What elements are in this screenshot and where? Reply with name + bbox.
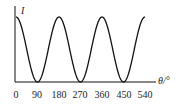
x-tick-label: 270: [73, 89, 88, 100]
x-tick-label: 0: [14, 89, 19, 100]
y-axis-label: I: [20, 5, 25, 16]
x-tick-label: 540: [138, 89, 153, 100]
x-tick-label: 450: [117, 89, 132, 100]
chart: I θ/° 0 90 180 270 360 450 540: [0, 0, 179, 107]
x-tick-label: 180: [52, 89, 67, 100]
intensity-curve: [16, 17, 145, 82]
x-tick-label: 360: [95, 89, 110, 100]
x-tick-label: 90: [32, 89, 42, 100]
x-tick-labels: 0 90 180 270 360 450 540: [14, 89, 153, 100]
x-axis-label: θ/°: [158, 75, 170, 86]
